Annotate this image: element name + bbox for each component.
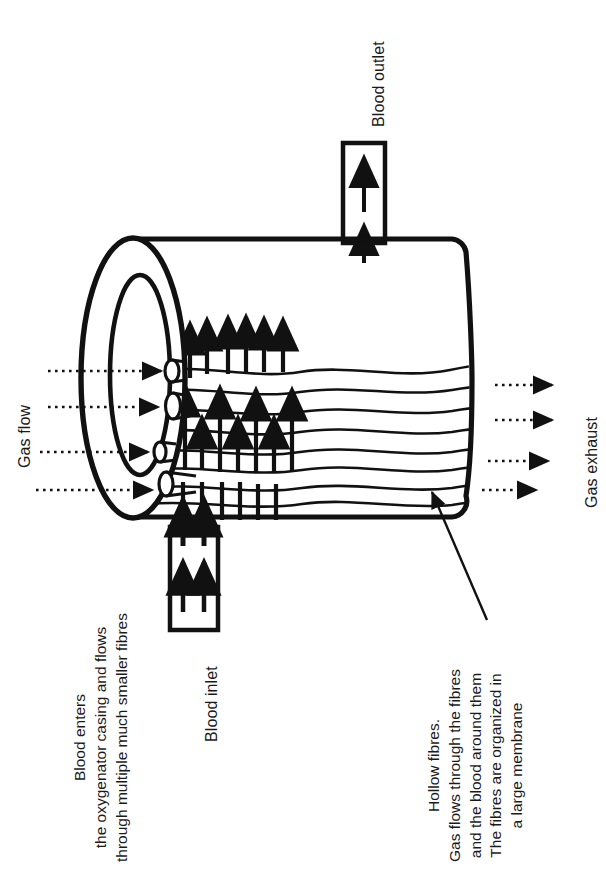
caption-line: The fibres are organized in bbox=[486, 669, 507, 862]
fibre-pointer bbox=[432, 492, 487, 620]
caption-line: Hollow fibres. bbox=[424, 669, 445, 862]
hollow-fibres-caption: Hollow fibres. Gas flows through the fib… bbox=[424, 669, 528, 862]
caption-line: and the blood around them bbox=[466, 669, 487, 862]
gas-exhaust-arrows bbox=[482, 385, 552, 490]
caption-line: through multiple much smaller fibres bbox=[112, 613, 133, 862]
caption-line: a large membrane bbox=[507, 669, 528, 862]
gas-exhaust-label: Gas exhaust bbox=[583, 417, 601, 508]
blood-inlet-label: Blood inlet bbox=[203, 666, 221, 742]
blood-outlet-port bbox=[343, 143, 385, 263]
hollow-fibres bbox=[148, 364, 492, 507]
caption-line: the oxygenator casing and flows bbox=[91, 613, 112, 862]
blood-outlet-label: Blood outlet bbox=[370, 41, 388, 127]
caption-line: Gas flows through the fibres bbox=[445, 669, 466, 862]
oxygenator-diagram-figure: Gas flow Gas exhaust Blood outlet Blood … bbox=[0, 0, 606, 879]
caption-line: Blood enters bbox=[70, 613, 91, 862]
gas-flow-label: Gas flow bbox=[16, 405, 34, 468]
blood-path-caption: Blood enters the oxygenator casing and f… bbox=[70, 613, 132, 862]
